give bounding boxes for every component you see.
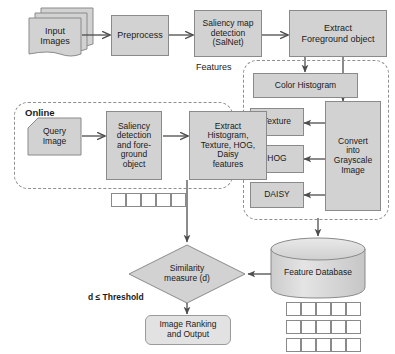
node-convert-grayscale[interactable]: Convert into Grayscale Image bbox=[325, 101, 381, 211]
node-daisy[interactable]: DAISY bbox=[250, 182, 304, 208]
node-input-images[interactable]: Input Images bbox=[29, 20, 81, 52]
features-group-label: Features bbox=[196, 62, 232, 72]
threshold-label: d ≤ Threshold bbox=[88, 292, 144, 302]
db-feature-vector-row bbox=[286, 320, 361, 334]
feature-database-cylinder bbox=[271, 238, 365, 298]
db-feature-vector-row bbox=[286, 302, 361, 316]
node-extract-query-features[interactable]: Extract Histogram, Texture, HOG, Daisy f… bbox=[189, 111, 267, 180]
node-preprocess[interactable]: Preprocess bbox=[111, 15, 169, 56]
node-image-ranking-output[interactable]: Image Ranking and Output bbox=[145, 315, 231, 345]
node-saliency-detection-foreground[interactable]: Saliency detection and fore- ground obje… bbox=[106, 111, 162, 180]
db-feature-vector-row bbox=[286, 338, 361, 352]
node-color-histogram[interactable]: Color Histogram bbox=[253, 73, 358, 98]
node-extract-foreground-object[interactable]: Extract Foreground object bbox=[289, 10, 387, 57]
query-feature-vector bbox=[111, 193, 186, 207]
node-saliency-map-detection[interactable]: Saliency map detection (SalNet) bbox=[194, 10, 262, 57]
similarity-diamond-shape bbox=[129, 245, 245, 303]
flowchart-canvas: Features Online d ≤ Threshold Input Imag… bbox=[0, 0, 395, 354]
node-query-image[interactable]: Query Image bbox=[28, 120, 81, 153]
online-group-label: Online bbox=[25, 107, 55, 118]
